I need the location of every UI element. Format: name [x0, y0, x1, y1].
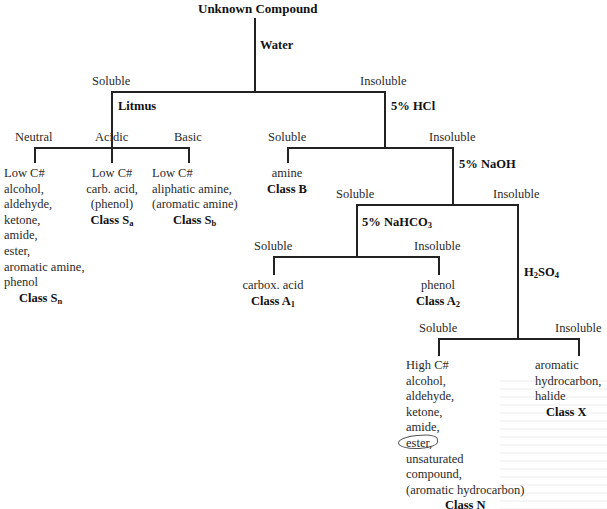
- connector-drop-b: [287, 147, 289, 163]
- test-naoh: 5% NaOH: [459, 157, 516, 172]
- label-hcl-soluble: Soluble: [268, 130, 306, 145]
- connector-drop-n: [438, 338, 440, 356]
- sa-line: Low C#: [83, 166, 141, 182]
- connector-water-split: [111, 91, 385, 93]
- x-line: halide: [535, 389, 601, 405]
- sn-line: Low C#: [4, 166, 85, 182]
- sb-line: (aromatic amine): [152, 197, 238, 213]
- connector-hcl-split: [287, 147, 453, 149]
- class-n-label: Class N: [406, 498, 524, 509]
- connector-drop-sn: [34, 147, 36, 163]
- root-node: Unknown Compound: [198, 1, 318, 16]
- sn-line: phenol: [4, 275, 85, 291]
- label-h2so4-soluble: Soluble: [419, 321, 457, 336]
- class-n-node: High C# alcohol, aldehyde, ketone, amide…: [406, 358, 524, 509]
- test-nahco3: 5% NaHCO3: [362, 215, 432, 230]
- test-hcl: 5% HCl: [391, 99, 435, 114]
- test-water: Water: [260, 38, 293, 53]
- class-x-node: aromatic hydrocarbon, halide Class X: [535, 358, 601, 420]
- class-sa-node: Low C# carb. acid, (phenol) Class Sa: [83, 166, 141, 228]
- connector-drop-a2: [438, 256, 440, 275]
- sn-line: aromatic amine,: [4, 260, 85, 276]
- class-b-label: Class B: [257, 182, 317, 198]
- connector-drop-sb: [188, 147, 190, 163]
- a2-line: phenol: [408, 278, 468, 294]
- label-naoh-insoluble: Insoluble: [493, 187, 540, 202]
- sa-line: (phenol): [83, 197, 141, 213]
- connector-naoh-vertical: [452, 147, 454, 205]
- class-sn-label: Class Sn: [4, 291, 85, 307]
- label-water-insoluble: Insoluble: [360, 74, 407, 89]
- connector-drop-x: [578, 338, 580, 356]
- label-litmus-acidic: Acidic: [95, 130, 128, 145]
- class-b-node: amine Class B: [257, 166, 317, 197]
- n-line: compound,: [406, 467, 524, 483]
- sn-line: amide,: [4, 228, 85, 244]
- label-h2so4-insoluble: Insoluble: [555, 321, 602, 336]
- connector-nahco3-split: [273, 256, 439, 258]
- n-line: aldehyde,: [406, 389, 524, 405]
- n-line: ketone,: [406, 405, 524, 421]
- sb-line: aliphatic amine,: [152, 182, 238, 198]
- connector-nahco3-vertical: [356, 204, 358, 257]
- test-h2so4: H2SO4: [524, 265, 559, 280]
- class-a1-label: Class A1: [233, 294, 313, 310]
- sn-line: aldehyde,: [4, 197, 85, 213]
- sn-line: ester,: [4, 244, 85, 260]
- connector-root-vertical: [254, 18, 256, 92]
- label-nahco3-soluble: Soluble: [254, 239, 292, 254]
- class-a2-label: Class A2: [408, 294, 468, 310]
- connector-drop-a1: [273, 256, 275, 275]
- x-line: aromatic: [535, 358, 601, 374]
- connector-drop-sa: [111, 147, 113, 163]
- b-line: amine: [257, 166, 317, 182]
- connector-hcl-vertical: [384, 91, 386, 148]
- class-x-label: Class X: [535, 405, 601, 421]
- n-line: (aromatic hydrocarbon): [406, 483, 524, 499]
- test-litmus: Litmus: [118, 99, 156, 114]
- sb-line: Low C#: [152, 166, 238, 182]
- label-nahco3-insoluble: Insoluble: [414, 239, 461, 254]
- n-line: High C#: [406, 358, 524, 374]
- sa-line: carb. acid,: [83, 182, 141, 198]
- label-hcl-insoluble: Insoluble: [429, 130, 476, 145]
- class-sn-node: Low C# alcohol, aldehyde, ketone, amide,…: [4, 166, 85, 306]
- sn-line: alcohol,: [4, 182, 85, 198]
- sn-line: ketone,: [4, 213, 85, 229]
- class-a1-node: carbox. acid Class A1: [233, 278, 313, 309]
- a1-line: carbox. acid: [233, 278, 313, 294]
- label-litmus-neutral: Neutral: [15, 130, 52, 145]
- n-line: unsaturated: [406, 452, 524, 468]
- n-line: alcohol,: [406, 374, 524, 390]
- label-water-soluble: Soluble: [92, 74, 130, 89]
- class-sb-label: Class Sb: [152, 213, 238, 229]
- connector-h2so4-vertical: [517, 204, 519, 339]
- class-sb-node: Low C# aliphatic amine, (aromatic amine)…: [152, 166, 238, 228]
- class-sa-label: Class Sa: [83, 213, 141, 229]
- connector-h2so4-split: [438, 338, 579, 340]
- x-line: hydrocarbon,: [535, 374, 601, 390]
- label-litmus-basic: Basic: [174, 130, 202, 145]
- connector-naoh-split: [356, 204, 518, 206]
- label-naoh-soluble: Soluble: [336, 187, 374, 202]
- class-a2-node: phenol Class A2: [408, 278, 468, 309]
